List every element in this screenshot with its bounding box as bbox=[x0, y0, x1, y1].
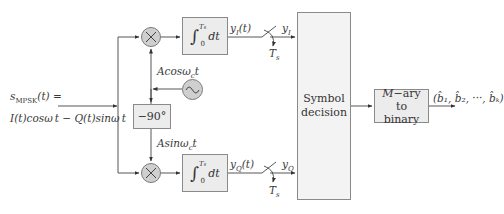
multiplier-i bbox=[141, 27, 161, 47]
yq-label: yQ bbox=[282, 158, 294, 175]
mary-rest: −ary to bbox=[394, 87, 421, 113]
yi-sub: I bbox=[288, 29, 291, 37]
mary-m: M bbox=[382, 87, 393, 100]
integrator-i: ∫Ts0dt bbox=[182, 17, 228, 55]
multiply-icon bbox=[142, 164, 160, 182]
integral-icon: ∫ bbox=[190, 26, 199, 46]
input-rest: (t) = bbox=[37, 90, 62, 102]
integral-icon: ∫ bbox=[190, 163, 199, 183]
mary-line2: binary bbox=[384, 113, 420, 126]
input-expression: I(t)cosω t − Q(t)sinω t bbox=[10, 112, 126, 124]
sample-time-bottom: Ts bbox=[269, 184, 280, 201]
integral-limits: Ts0 bbox=[199, 23, 206, 49]
ts-text: T bbox=[269, 47, 276, 59]
sin-carrier-label: Asinωct bbox=[157, 137, 197, 154]
integrand: dt bbox=[208, 167, 219, 180]
phase-shift-block: −90° bbox=[133, 104, 171, 129]
mary-line1: M−ary to bbox=[375, 87, 428, 113]
input-signal-label: sMPSK(t) = bbox=[10, 90, 62, 107]
symbol-decision-block: Symbol decision bbox=[297, 12, 351, 200]
upper-sub: s bbox=[204, 24, 207, 30]
yq-sub: Q bbox=[288, 165, 294, 173]
yq-t-label: yQ(t) bbox=[230, 158, 254, 175]
decision-line2: decision bbox=[301, 106, 347, 120]
ts-sub: s bbox=[276, 191, 280, 199]
upper-sub: s bbox=[204, 161, 207, 167]
yi-label: yI bbox=[282, 22, 291, 39]
local-oscillator bbox=[182, 79, 203, 100]
decision-line1: Symbol bbox=[303, 92, 344, 106]
multiply-icon bbox=[142, 28, 160, 46]
ts-sub: s bbox=[276, 54, 280, 62]
sine-wave-icon bbox=[183, 80, 202, 99]
sin-t: t bbox=[193, 137, 197, 149]
yi-t-label: yI(t) bbox=[230, 22, 251, 39]
cos-t: t bbox=[195, 65, 199, 77]
input-subscript: MPSK bbox=[15, 97, 37, 105]
sample-time-top: Ts bbox=[269, 47, 280, 64]
integral-limits: Ts0 bbox=[199, 160, 206, 186]
output-bits-label: (b̂₁, b̂₂, ···, b̂ₖ) bbox=[433, 92, 504, 104]
ts-text: T bbox=[269, 184, 276, 196]
cos-text: Acosω bbox=[157, 65, 191, 77]
yi-t-rest: (t) bbox=[239, 22, 251, 34]
sin-text: Asinω bbox=[157, 137, 189, 149]
lower-limit: 0 bbox=[199, 40, 206, 49]
mpsk-demodulator-diagram: sMPSK(t) = I(t)cosω t − Q(t)sinω t Acosω… bbox=[0, 0, 504, 214]
integrand: dt bbox=[208, 30, 219, 43]
cos-carrier-label: Acosωct bbox=[157, 65, 199, 82]
mary-to-binary-block: M−ary to binary bbox=[374, 89, 429, 123]
multiplier-q bbox=[141, 163, 161, 183]
yq-t-rest: (t) bbox=[242, 158, 254, 170]
integrator-q: ∫Ts0dt bbox=[182, 154, 228, 192]
lower-limit: 0 bbox=[199, 177, 206, 186]
